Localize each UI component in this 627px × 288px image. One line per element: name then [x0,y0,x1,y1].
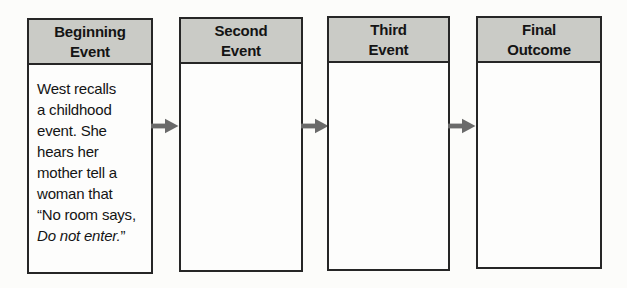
box-title-line: Outcome [507,40,571,60]
box-second-event: Second Event [179,17,303,272]
box-title-line: Beginning [54,22,126,42]
body-text-line: event. She [37,120,145,141]
box-header-beginning-event: Beginning Event [29,20,151,65]
body-text-line: mother tell a [37,162,145,183]
body-text-line: hears her [37,141,145,162]
box-title-line: Final [522,20,556,40]
box-title-line: Event [70,42,110,62]
box-title-line: Event [221,41,261,61]
body-text-line: “No room says, [37,204,145,225]
box-title-line: Third [370,20,407,40]
arrow-right-icon [301,118,329,134]
body-text-line: West recalls [37,78,145,99]
box-header-third-event: Third Event [329,18,448,63]
box-body-second-event [181,64,301,77]
box-body-beginning-event: West recallsa childhoodevent. Shehears h… [29,65,151,246]
box-body-third-event [329,63,448,76]
box-beginning-event: Beginning Event West recallsa childhoode… [27,18,153,274]
box-title-line: Second [215,21,268,41]
box-header-second-event: Second Event [181,19,301,64]
worksheet-page: Beginning Event West recallsa childhoode… [0,0,627,288]
body-text-line: woman that [37,183,145,204]
box-third-event: Third Event [327,16,450,271]
box-header-final-outcome: Final Outcome [478,18,600,63]
box-title-line: Event [369,40,409,60]
body-text-line: Do not enter.” [37,225,145,246]
body-text-line: a childhood [37,99,145,120]
arrow-right-icon [151,118,179,134]
box-final-outcome: Final Outcome [476,16,602,269]
box-body-final-outcome [478,63,600,76]
arrow-right-icon [448,118,476,134]
